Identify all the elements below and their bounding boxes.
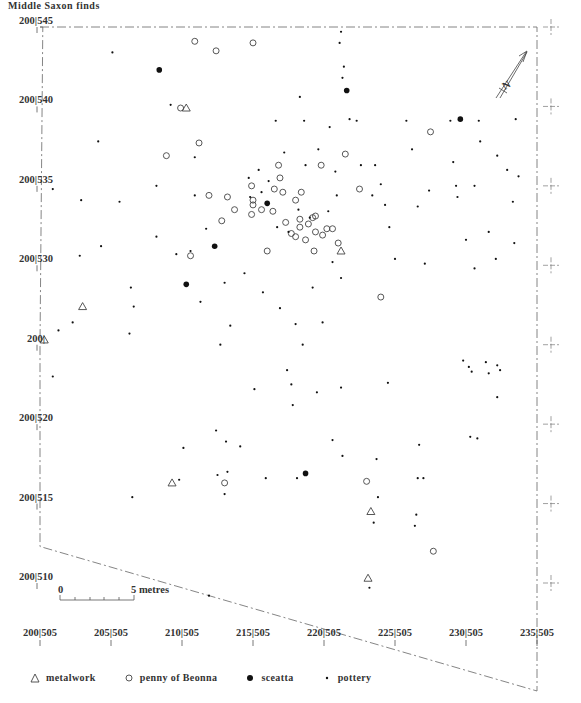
pottery-find bbox=[384, 204, 386, 206]
sceatta-find bbox=[303, 471, 309, 477]
pottery-find bbox=[226, 471, 228, 473]
penny-find bbox=[178, 105, 184, 111]
penny-find bbox=[219, 218, 225, 224]
pottery-find bbox=[312, 286, 314, 288]
pottery-find bbox=[331, 439, 333, 441]
pottery-find bbox=[411, 148, 413, 150]
pottery-find bbox=[468, 366, 470, 368]
x-tick-label: 235|505 bbox=[520, 627, 554, 638]
sceatta-find bbox=[183, 282, 189, 288]
pottery-find bbox=[343, 66, 345, 68]
penny-find bbox=[311, 248, 317, 254]
y-tick-label: 200| bbox=[27, 333, 45, 344]
pottery-find bbox=[97, 140, 99, 142]
pottery-find bbox=[178, 479, 180, 481]
pottery-find bbox=[380, 183, 382, 185]
pottery-find bbox=[260, 191, 262, 193]
pottery-find bbox=[327, 210, 329, 212]
y-tick-label: 200|515 bbox=[19, 492, 53, 503]
penny-find bbox=[303, 237, 309, 243]
pottery-find bbox=[456, 196, 458, 198]
pottery-find bbox=[199, 301, 201, 303]
pottery-find bbox=[473, 267, 475, 269]
x-tick-label: 220|505 bbox=[307, 627, 341, 638]
pottery-find bbox=[80, 199, 82, 201]
legend-item-sceatta: sceatta bbox=[245, 672, 293, 683]
pottery-find bbox=[215, 429, 217, 431]
pottery-find bbox=[405, 120, 407, 122]
y-tick-label: 200|520 bbox=[19, 412, 53, 423]
site-boundary bbox=[40, 27, 537, 691]
x-tick-label: 205|505 bbox=[94, 627, 128, 638]
penny-find bbox=[250, 40, 256, 46]
penny-find bbox=[320, 232, 326, 238]
pottery-find bbox=[341, 77, 343, 79]
pottery-find bbox=[462, 360, 464, 362]
pottery-find bbox=[340, 31, 342, 33]
pottery-find bbox=[488, 231, 490, 233]
pottery-find bbox=[309, 217, 311, 219]
penny-find bbox=[264, 248, 270, 254]
pottery-find bbox=[368, 587, 370, 589]
pottery-find bbox=[72, 321, 74, 323]
pottery-find bbox=[334, 170, 336, 172]
penny-find bbox=[364, 478, 370, 484]
pottery-find bbox=[316, 391, 318, 393]
x-tick-label: 200|505 bbox=[23, 627, 57, 638]
metalwork-find bbox=[168, 479, 176, 486]
pottery-find bbox=[100, 245, 102, 247]
pottery-find bbox=[302, 344, 304, 346]
pottery-find bbox=[297, 209, 299, 211]
penny-find bbox=[222, 480, 228, 486]
pottery-find bbox=[375, 458, 377, 460]
grid-cross bbox=[543, 416, 559, 432]
scale-bar: 0 5 metres bbox=[58, 584, 169, 600]
pottery-find bbox=[339, 42, 341, 44]
pottery-find bbox=[52, 375, 54, 377]
pottery-find bbox=[485, 361, 487, 363]
penny-find bbox=[324, 226, 330, 232]
pottery-find bbox=[253, 388, 255, 390]
pottery-find bbox=[488, 372, 490, 374]
pottery-find bbox=[208, 595, 210, 597]
find-distribution-map: 200|505205|505210|505215|505220|505225|5… bbox=[0, 0, 581, 703]
pottery-find bbox=[248, 177, 250, 179]
y-axis-labels: 200|545200|540200|535200|530200|200|5202… bbox=[19, 15, 53, 589]
penny-find bbox=[293, 234, 299, 240]
penny-find bbox=[270, 208, 276, 214]
north-arrow-icon: N bbox=[496, 51, 527, 98]
y-tick-label: 200|530 bbox=[19, 253, 53, 264]
penny-find bbox=[249, 211, 255, 217]
pottery-find bbox=[417, 477, 419, 479]
metalwork-find bbox=[337, 247, 345, 254]
y-tick-label: 200|540 bbox=[19, 94, 53, 105]
pottery-find bbox=[262, 291, 264, 293]
pottery-find bbox=[512, 201, 514, 203]
pottery-find bbox=[478, 120, 480, 122]
grid-cross bbox=[543, 496, 559, 512]
pottery-find bbox=[225, 441, 227, 443]
dot-icon bbox=[322, 673, 332, 683]
pottery-find bbox=[424, 263, 426, 265]
sceatta-find bbox=[344, 88, 350, 94]
pottery-find bbox=[229, 325, 231, 327]
x-tick-label: 215|505 bbox=[236, 627, 270, 638]
sceatta-find bbox=[212, 243, 218, 249]
pottery-find bbox=[249, 196, 251, 198]
pottery-find bbox=[469, 436, 471, 438]
penny-find bbox=[192, 38, 198, 44]
legend-label: metalwork bbox=[46, 672, 96, 683]
pottery-find bbox=[239, 445, 241, 447]
penny-find bbox=[305, 221, 311, 227]
pottery-find bbox=[499, 369, 501, 371]
pottery-find bbox=[182, 447, 184, 449]
grid-cross bbox=[543, 575, 559, 591]
pottery-find bbox=[286, 369, 288, 371]
pottery-find bbox=[417, 205, 419, 207]
penny-find bbox=[232, 207, 238, 213]
pottery-find bbox=[216, 474, 218, 476]
pottery-find bbox=[329, 126, 331, 128]
x-axis-labels: 200|505205|505210|505215|505220|505225|5… bbox=[23, 627, 554, 646]
pottery-find bbox=[194, 194, 196, 196]
legend-label: penny of Beonna bbox=[140, 672, 218, 683]
